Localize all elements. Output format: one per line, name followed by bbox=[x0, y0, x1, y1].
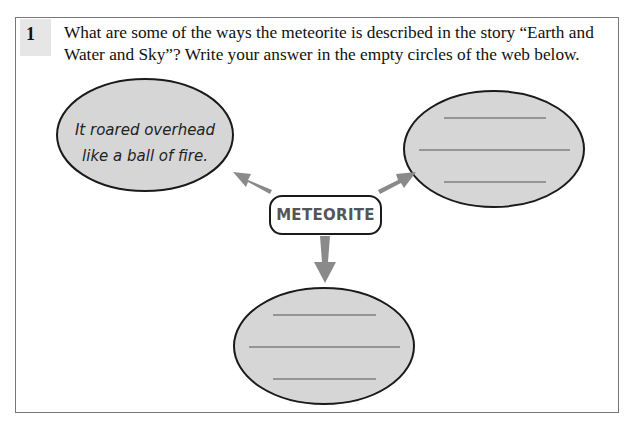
answer-bubble-top-right[interactable] bbox=[404, 91, 584, 207]
center-concept-label: METEORITE bbox=[270, 196, 381, 234]
answer-bubble-bottom[interactable] bbox=[234, 288, 414, 404]
arrow-to-bottom bbox=[314, 236, 336, 283]
example-answer-text: It roared overhead like a ball of fire. bbox=[60, 117, 230, 169]
arrow-to-top-left bbox=[233, 172, 272, 194]
arrow-to-top-right bbox=[378, 172, 416, 194]
